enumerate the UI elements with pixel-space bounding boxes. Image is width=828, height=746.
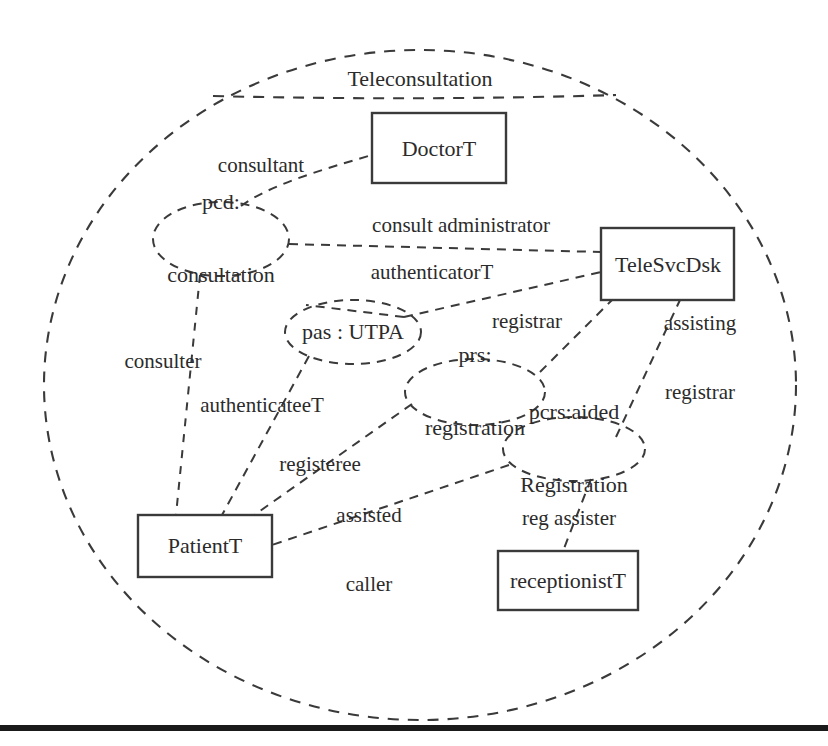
collaboration-use-pas-utpa <box>285 300 421 364</box>
role-connector-consultant <box>241 155 372 206</box>
diagram-vector-layer <box>0 0 828 746</box>
collaboration-use-pcd-consultation <box>153 202 289 276</box>
classifier-box-teleSvcDsk <box>601 228 734 300</box>
collaboration-use-pcrs-aided-registration <box>503 417 645 481</box>
role-connector-authenticatorT-tail <box>306 305 404 317</box>
classifier-box-patientT <box>138 515 272 577</box>
diagram-canvas: Teleconsultation DoctorT TeleSvcDsk Pati… <box>0 0 828 746</box>
role-connector-assisted-caller <box>272 465 509 545</box>
page-bottom-rule <box>0 725 828 731</box>
collaboration-use-prs-registration <box>405 359 545 425</box>
classifier-box-receptionistT <box>498 551 638 610</box>
role-connector-registrar <box>540 300 612 372</box>
classifier-box-doctorT <box>372 113 506 183</box>
collaboration-name-divider <box>213 95 616 98</box>
role-connector-reg-assister <box>563 479 591 551</box>
role-connector-authenticateeT <box>222 356 309 515</box>
role-connector-authenticatorT <box>404 272 601 317</box>
role-connector-consult-administrator <box>289 244 601 252</box>
role-connector-registeree <box>250 404 412 518</box>
role-connector-consulter <box>176 275 200 515</box>
role-connector-assisting-registrar <box>616 300 680 437</box>
